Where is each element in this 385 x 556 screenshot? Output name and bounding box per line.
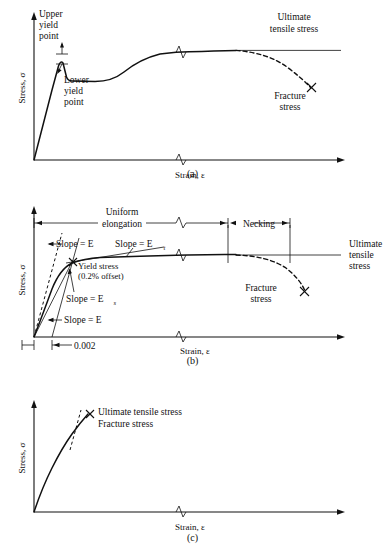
fracture-label-line1-a: Fracture (274, 91, 306, 101)
fracture-label-line2-a: stress (279, 102, 300, 112)
stress-strain-curve-c (34, 414, 88, 512)
offset-value-label: 0.002 (74, 341, 96, 351)
lower-yield-point-annotation-a: Lower yield point (64, 75, 90, 107)
y-axis-arrow-b (31, 206, 37, 214)
chart-a: Upper yield point Lower yield point Ulti… (0, 0, 385, 185)
fracture-label-line1-b: Fracture (245, 283, 277, 293)
y-axis-label-b: Stress, σ (17, 264, 27, 295)
x-axis-label-c: Strain, ε (175, 522, 205, 532)
upper-yield-label-line3: point (39, 31, 59, 41)
uts-label-c: Ultimate tensile stress (98, 407, 182, 417)
fracture-label-c: Fracture stress (98, 419, 153, 429)
uts-label-b-line2: tensile (349, 250, 374, 260)
yield-stress-annotation-b: Yield stress (0.2% offset) (69, 258, 124, 281)
panel-b: Uniform elongation Necking Slope = E (0, 185, 385, 370)
y-axis-arrow-c (31, 400, 37, 408)
y-axis-label-a: Stress, σ (17, 72, 27, 103)
necking-drop-curve-a (236, 50, 311, 88)
yield-stress-label-line2: (0.2% offset) (78, 271, 124, 281)
slope-et-label: Slope = E (115, 239, 153, 249)
panel-c: Ultimate tensile stress Fracture stress … (0, 370, 385, 556)
lower-yield-label-line1: Lower (64, 75, 90, 85)
upper-yield-label-line1: Upper (39, 9, 64, 19)
fracture-label-line2-b: stress (250, 294, 271, 304)
lower-yield-label-line3: point (64, 97, 84, 107)
uts-label-b-line3: stress (349, 261, 370, 271)
offset-dimension-b: 0.002 (22, 340, 96, 351)
fracture-annotation-a: Fracture stress (274, 91, 306, 112)
uniform-elongation-label-line1: Uniform (106, 207, 139, 217)
panel-a: Upper yield point Lower yield point Ulti… (0, 0, 385, 185)
chart-b: Uniform elongation Necking Slope = E (0, 185, 385, 370)
uts-label-b-line1: Ultimate (349, 239, 382, 249)
chart-c: Ultimate tensile stress Fracture stress … (0, 370, 385, 556)
upper-yield-point-annotation-a: Upper yield point (39, 9, 68, 74)
y-axis-arrow-a (31, 12, 37, 20)
slope-es-subscript: s (114, 299, 117, 306)
upper-yield-label-line2: yield (39, 20, 58, 30)
x-axis-arrow-a (337, 157, 345, 163)
necking-label: Necking (243, 219, 275, 229)
uts-annotation-b: Ultimate tensile stress (349, 239, 382, 271)
slope-e-top-label: Slope = E (56, 239, 94, 249)
dimension-break-b (176, 217, 186, 228)
slope-e-bottom-label: Slope = E (64, 315, 102, 325)
uniform-elongation-label-line2: elongation (102, 219, 142, 229)
yield-stress-label-line1: Yield stress (78, 261, 119, 271)
fracture-marker-a (307, 83, 316, 92)
x-axis-arrow-c (337, 509, 345, 515)
uts-label-line1: Ultimate (277, 12, 310, 22)
lower-yield-label-line2: yield (64, 86, 83, 96)
y-axis-label-c: Stress, σ (17, 442, 27, 473)
x-axis-arrow-b (337, 334, 345, 340)
fracture-annotation-b: Fracture stress (245, 283, 277, 304)
panel-caption-c: (c) (0, 532, 385, 543)
uts-annotation-a: Ultimate tensile stress (270, 12, 319, 34)
panel-caption-b: (b) (0, 355, 385, 366)
slope-es-label: Slope = E (66, 294, 104, 304)
axes-c (31, 400, 345, 517)
slope-et-subscript: t (164, 244, 166, 251)
upper-yield-arrow-a (60, 42, 64, 48)
slope-e-top-annotation-b: Slope = E (48, 239, 94, 249)
uts-label-line2: tensile stress (270, 24, 319, 34)
panel-caption-a: (a) (0, 168, 385, 179)
